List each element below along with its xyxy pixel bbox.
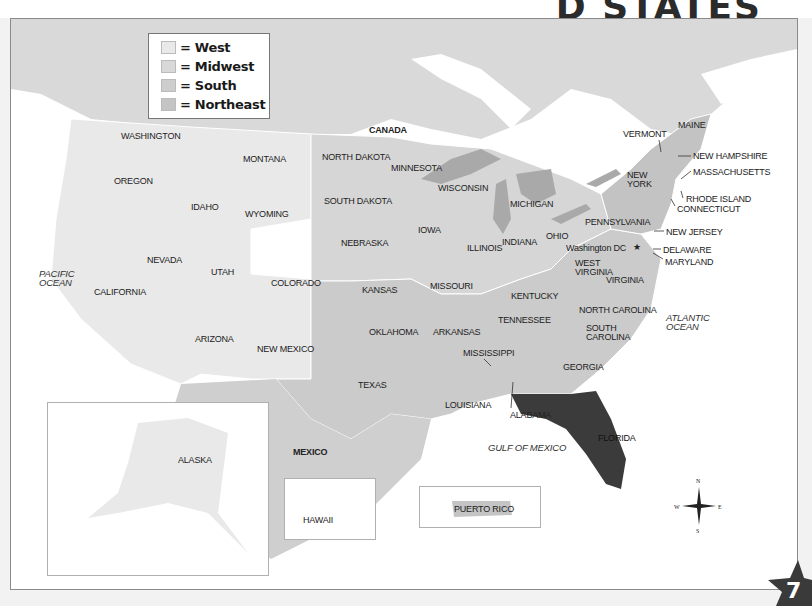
state-label: MINNESOTA [391,163,442,173]
state-label: MISSOURI [430,281,473,291]
legend-label: = Northeast [180,97,265,112]
state-label: NORTH DAKOTA [322,152,390,162]
legend-label: = South [180,78,236,93]
state-label: NEVADA [147,255,182,265]
capital-label: Washington DC [566,243,626,253]
state-label: WYOMING [245,209,289,219]
state-label: PENNSYLVANIA [585,217,650,227]
state-label: IOWA [418,225,441,235]
state-label: KENTUCKY [511,291,558,301]
state-label: MASSACHUSETTS [693,167,770,177]
country-label-canada: CANADA [369,125,407,135]
title-strip: D STATES [0,0,812,18]
legend-label: = West [180,40,230,55]
page-number-badge: 7 [768,560,812,606]
state-label: COLORADO [271,278,321,288]
state-label: MARYLAND [665,257,713,267]
state-label: IDAHO [191,202,219,212]
country-label-mexico: MEXICO [293,447,327,457]
legend-swatch-midwest [161,60,176,73]
state-label: INDIANA [502,237,537,247]
state-label: CAROLINA [586,332,630,342]
state-label-hawaii: HAWAII [303,515,333,525]
state-label-alaska: ALASKA [178,455,212,465]
state-label: MAINE [678,120,706,130]
legend-label: = Midwest [180,59,254,74]
state-label: ALABAMA [510,410,551,420]
state-label: NEW JERSEY [666,227,723,237]
state-label: TEXAS [358,380,387,390]
hawaii-inset: HAWAII [284,478,376,540]
state-label: OREGON [114,176,153,186]
state-label: KANSAS [362,285,397,295]
puerto-rico-inset: PUERTO RICO [419,486,541,528]
state-label: ILLINOIS [467,243,502,253]
legend-swatch-south [161,79,176,92]
state-label: OKLAHOMA [369,327,418,337]
alaska-shape [48,403,268,575]
compass-n: N [696,476,700,486]
state-label: ARKANSAS [433,327,480,337]
legend-item-northeast: = Northeast [161,97,265,112]
legend-item-south: = South [161,78,236,93]
compass-rose: N S E W [674,479,724,534]
legend-swatch-northeast [161,98,176,111]
state-label: TENNESSEE [498,315,551,325]
ocean-label-atlantic-2: OCEAN [666,322,699,332]
state-label: WISCONSIN [438,183,488,193]
state-label: NEW MEXICO [257,344,314,354]
state-label: OHIO [546,231,568,241]
state-label: CALIFORNIA [94,287,146,297]
us-regions-map: = West = Midwest = South = Northeast ALA… [10,18,798,590]
page-number: 7 [786,578,801,603]
state-label: WASHINGTON [121,131,181,141]
state-label: MISSISSIPPI [463,348,514,358]
state-label: RHODE ISLAND [686,194,751,204]
state-label: NEBRASKA [341,238,388,248]
state-label: MONTANA [243,154,286,164]
state-label-puerto-rico: PUERTO RICO [454,504,514,514]
state-label: UTAH [211,267,234,277]
state-label: SOUTH DAKOTA [324,196,392,206]
state-label: NEW HAMPSHIRE [693,151,767,161]
compass-w: W [674,502,679,512]
legend-item-west: = West [161,40,230,55]
state-label: CONNECTICUT [677,204,740,214]
ocean-label-pacific-2: OCEAN [39,278,72,288]
state-label: LOUISIANA [445,400,491,410]
legend-item-midwest: = Midwest [161,59,254,74]
star-icon: ★ [633,242,641,252]
state-label: GEORGIA [563,362,604,372]
ocean-label-gulf: GULF OF MEXICO [488,443,566,453]
state-label: ARIZONA [195,334,234,344]
state-label: VERMONT [623,129,667,139]
state-label-florida: FLORIDA [598,433,636,443]
legend: = West = Midwest = South = Northeast [148,33,270,119]
alaska-inset: ALASKA [47,402,269,576]
compass-e: E [718,502,721,512]
state-label: DELAWARE [663,245,711,255]
state-label: YORK [627,179,652,189]
legend-swatch-west [161,41,176,54]
compass-s: S [696,526,699,536]
state-label: NORTH CAROLINA [579,305,657,315]
state-label: MICHIGAN [510,199,553,209]
state-label: VIRGINIA [575,267,613,277]
